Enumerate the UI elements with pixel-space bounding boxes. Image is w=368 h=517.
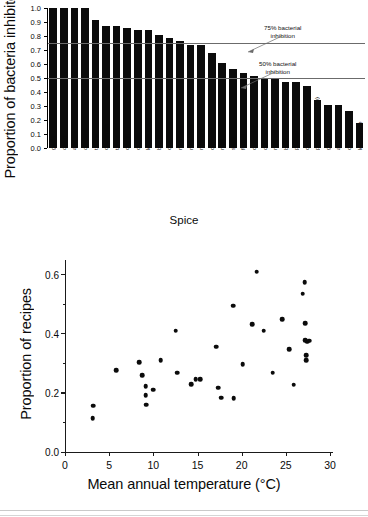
annotation-75-leader: [244, 35, 284, 57]
scatter-x-tick-label: 5: [106, 459, 112, 471]
panel-scatter-plot: Proportion of recipes 0.00.20.40.6 05101…: [0, 240, 368, 517]
reference-line: [48, 43, 365, 44]
bar: [218, 63, 226, 148]
scatter-point: [173, 329, 178, 334]
bar-chart-x-axis-title: Spice: [0, 214, 368, 226]
scatter-point: [303, 321, 308, 326]
bar-chart-x-label-slot: cloves: [132, 150, 143, 212]
scatter-point: [114, 368, 119, 373]
bar-chart-x-label-slot: parsley: [290, 150, 301, 212]
bar-chart-y-tick-label: 0.2: [31, 116, 41, 125]
page-rule-bottom: [0, 515, 368, 516]
bar-chart-x-label-slot: dill: [258, 150, 269, 212]
scatter-x-tick-label: 15: [192, 459, 204, 471]
bar-chart-y-tick-labels: 1.00.90.80.70.60.50.40.30.20.10.0: [20, 8, 44, 148]
bar-chart-y-axis-title-text: Proportion of bacteria inhibited: [2, 0, 18, 179]
scatter-x-tick-label: 25: [280, 459, 292, 471]
bar-chart-x-tick-label: mustard: [197, 129, 204, 150]
scatter-point: [90, 416, 95, 421]
bar-chart-x-label-slot: nutmeg: [269, 150, 280, 212]
bar-chart-x-tick-label: thyme: [92, 134, 99, 150]
bar-chart-x-tick-label: capsicums: [165, 122, 172, 150]
panel-bar-chart: Proportion of bacteria inhibited 1.00.90…: [0, 0, 368, 240]
scatter-x-tick-labels: 051015202530: [65, 459, 333, 473]
scatter-point: [137, 360, 142, 365]
bar-chart-x-tick-label: dill: [261, 143, 268, 150]
bar-chart-x-tick-label: pepper (black/white): [313, 97, 320, 150]
scatter-plot-area: [66, 260, 331, 452]
bar-chart-x-tick-label: cardamom: [303, 122, 310, 150]
bar-chart-x-tick-label: sage: [229, 137, 236, 150]
scatter-x-tick-marks: [65, 452, 333, 458]
scatter-x-tick-label: 10: [147, 459, 159, 471]
bar-chart-y-tick-label: 0.8: [31, 32, 41, 41]
scatter-point: [292, 382, 297, 387]
bar: [92, 20, 100, 148]
bar-chart-x-tick-label: cloves: [134, 133, 141, 150]
scatter-point: [300, 291, 305, 296]
scatter-point: [280, 317, 285, 322]
bar-chart-x-tick-label: nutmeg: [271, 130, 278, 150]
scatter-point: [140, 373, 145, 378]
bar-chart-x-label-slot: cinnamon: [100, 150, 111, 212]
scatter-point: [189, 382, 194, 387]
bar-chart-x-tick-label: mint: [218, 139, 225, 150]
scatter-point: [255, 269, 260, 274]
bar-chart-x-tick-label: rosemary: [176, 125, 183, 150]
bar-chart-x-tick-label: caraway: [208, 128, 215, 150]
bar-chart-x-tick-label: coriander: [250, 125, 257, 150]
scatter-y-tick-label: 0.6: [45, 269, 59, 280]
bar-chart-x-tick-label: marjoram: [187, 125, 194, 150]
scatter-x-axis-title: Mean annual temperature (°C): [0, 476, 368, 492]
bar: [123, 28, 131, 148]
bar-chart-y-tick-label: 0.1: [31, 130, 41, 139]
scatter-point: [175, 371, 180, 376]
scatter-point: [250, 322, 255, 327]
scatter-point: [302, 280, 307, 285]
bar-chart-x-label-slot: coriander: [248, 150, 259, 212]
scatter-y-tick-label: 0.0: [45, 447, 59, 458]
bar-chart-x-tick-label: lemon/lime: [356, 122, 363, 150]
scatter-point: [216, 386, 221, 391]
bar-chart-x-label-slot: marjoram: [184, 150, 195, 212]
scatter-point: [307, 338, 312, 343]
bar-chart-x-label-slot: anise seed: [332, 150, 343, 212]
scatter-x-tick-label: 0: [62, 459, 68, 471]
bar-chart-x-label-slot: cardamom: [301, 150, 312, 212]
bar-chart-x-label-slot: onion: [58, 150, 69, 212]
bar-chart-y-axis-title: Proportion of bacteria inhibited: [0, 2, 21, 162]
bar-chart-x-label-slot: tarragon: [110, 150, 121, 212]
bar-chart-x-tick-label: fennel: [239, 134, 246, 150]
bar-chart-x-tick-label: celery seed: [345, 120, 352, 150]
scatter-x-tick-label: 30: [324, 459, 336, 471]
bar-chart-x-label-slot: basil: [279, 150, 290, 212]
scatter-point: [262, 328, 267, 333]
scatter-point: [304, 358, 309, 363]
bar-chart-x-tick-label: bay leaf: [155, 129, 162, 150]
scatter-point: [91, 403, 96, 408]
bar-chart-x-tick-label: onion: [60, 136, 67, 150]
bar-chart-x-label-slot: capsicums: [163, 150, 174, 212]
bar-chart-x-label-slot: ginger: [322, 150, 333, 212]
reference-line: [48, 78, 365, 79]
bar-chart-x-tick-label: lemon grass: [144, 118, 151, 150]
annotation-50-line1: 50% bacterial: [259, 60, 297, 68]
bar-chart-x-label-slot: celery seed: [343, 150, 354, 212]
figure-two-panel: Proportion of bacteria inhibited 1.00.90…: [0, 0, 368, 517]
scatter-point: [270, 371, 275, 376]
bar-chart-y-tick-label: 1.0: [31, 4, 41, 13]
scatter-point: [219, 395, 224, 400]
bar-chart-y-tick-label: 0.3: [31, 102, 41, 111]
bar-chart-x-label-slot: sage: [227, 150, 238, 212]
scatter-point: [143, 384, 148, 389]
bar-chart-x-label-slot: mustard: [195, 150, 206, 212]
page-rule-top: [0, 510, 368, 511]
scatter-x-tick-label: 20: [236, 459, 248, 471]
bar-chart-x-tick-label: anise seed: [334, 122, 341, 150]
scatter-point: [214, 344, 219, 349]
bar-chart-y-tick-label: 0.5: [31, 74, 41, 83]
bar-chart-x-tick-labels: garliconionallspiceoreganothymecinnamont…: [47, 150, 364, 212]
bar-chart-x-label-slot: mint: [216, 150, 227, 212]
bar-chart-x-label-slot: lemon grass: [142, 150, 153, 212]
scatter-point: [287, 347, 292, 352]
